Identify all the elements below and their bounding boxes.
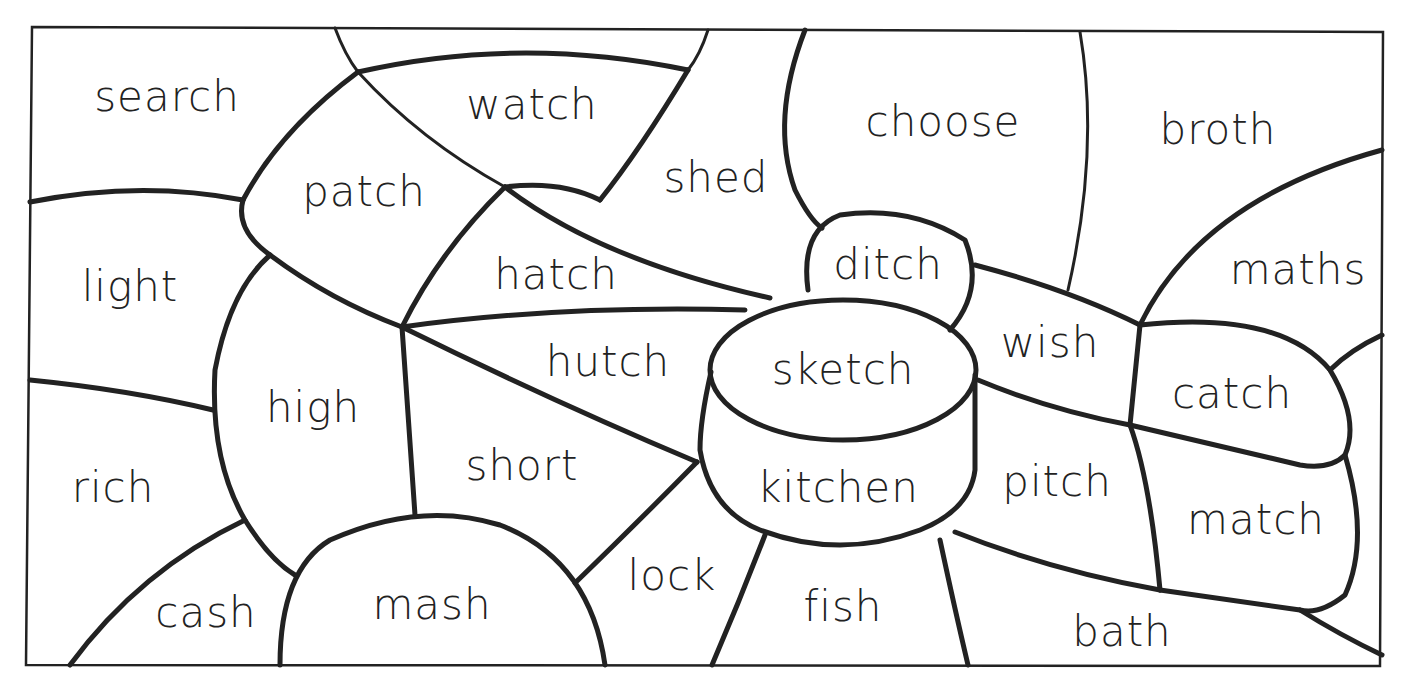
word-match[interactable]: match xyxy=(1187,499,1325,541)
word-high[interactable]: high xyxy=(266,387,360,429)
word-lock[interactable]: lock xyxy=(628,555,717,597)
word-kitchen[interactable]: kitchen xyxy=(757,467,919,509)
word-patch[interactable]: patch xyxy=(302,171,426,213)
word-search[interactable]: search xyxy=(94,76,240,118)
word-bath[interactable]: bath xyxy=(1072,611,1171,653)
word-watch[interactable]: watch xyxy=(466,84,597,126)
word-short[interactable]: short xyxy=(466,445,579,487)
word-ditch[interactable]: ditch xyxy=(833,244,943,286)
word-shed[interactable]: shed xyxy=(663,157,768,199)
word-rich[interactable]: rich xyxy=(72,467,155,509)
worksheet: search watch shed choose broth patch lig… xyxy=(0,0,1405,692)
word-mash[interactable]: mash xyxy=(372,584,491,626)
word-sketch[interactable]: sketch xyxy=(772,349,915,391)
word-light[interactable]: light xyxy=(82,266,179,308)
word-choose[interactable]: choose xyxy=(866,101,1021,143)
word-fish[interactable]: fish xyxy=(804,586,883,628)
word-hatch[interactable]: hatch xyxy=(494,254,618,296)
word-wish[interactable]: wish xyxy=(1001,322,1100,364)
word-catch[interactable]: catch xyxy=(1172,373,1292,415)
word-pitch[interactable]: pitch xyxy=(1002,461,1112,503)
word-maths[interactable]: maths xyxy=(1230,249,1367,291)
word-cash[interactable]: cash xyxy=(155,592,256,634)
word-broth[interactable]: broth xyxy=(1160,109,1277,151)
word-hutch[interactable]: hutch xyxy=(546,341,670,383)
